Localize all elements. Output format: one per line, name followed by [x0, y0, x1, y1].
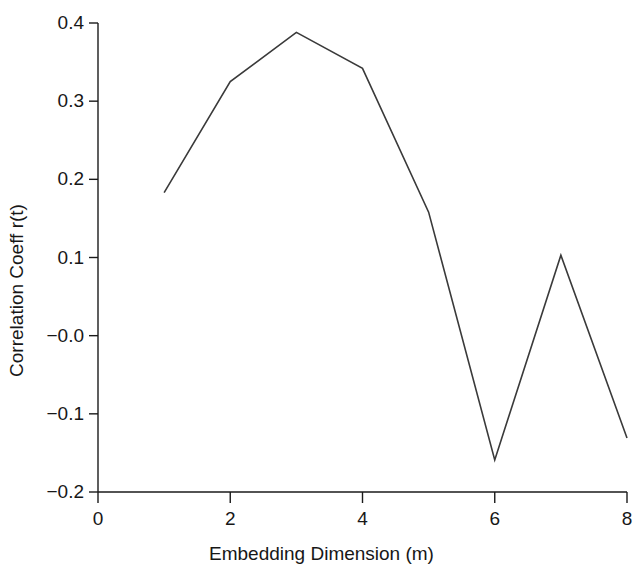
- y-tick-label: 0.2: [22, 168, 84, 190]
- x-axis-title: Embedding Dimension (m): [0, 543, 643, 565]
- data-series-line: [164, 32, 627, 460]
- x-tick-label: 0: [78, 508, 118, 530]
- y-tick-label: −0.0: [22, 325, 84, 347]
- axes-group: [98, 23, 627, 492]
- y-tick-label: 0.4: [22, 12, 84, 34]
- y-tick-label: 0.3: [22, 90, 84, 112]
- y-tick-label: −0.1: [22, 403, 84, 425]
- plot-area: [0, 0, 643, 581]
- x-tick-label: 4: [343, 508, 383, 530]
- y-tick-label: −0.2: [22, 481, 84, 503]
- correlation-coefficient-line-chart: Correlation Coeff r(t) Embedding Dimensi…: [0, 0, 643, 581]
- x-tick-label: 8: [607, 508, 643, 530]
- tick-marks-group: [89, 23, 627, 503]
- y-tick-label: 0.1: [22, 247, 84, 269]
- x-tick-label: 2: [210, 508, 250, 530]
- x-tick-label: 6: [475, 508, 515, 530]
